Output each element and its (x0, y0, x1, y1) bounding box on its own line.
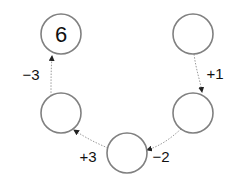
number-chain-diagram: 6 +1 −2 +3 −3 (0, 0, 244, 183)
node-middle-right (173, 93, 213, 133)
label-plus-one: +1 (206, 65, 223, 82)
arrow-bottom-to-middle-left (74, 130, 108, 148)
arrow-top-right-to-middle-right (194, 54, 202, 92)
node-bottom (107, 133, 147, 173)
diagram-canvas: 6 +1 −2 +3 −3 (0, 0, 244, 183)
label-minus-three: −3 (22, 66, 39, 83)
node-middle-left (41, 93, 81, 133)
node-value: 6 (55, 22, 67, 47)
label-minus-two: −2 (152, 148, 169, 165)
node-top-right (173, 14, 213, 54)
arrow-middle-left-to-top-left (51, 56, 52, 96)
node-top-left: 6 (41, 14, 81, 54)
label-plus-three: +3 (79, 148, 96, 165)
arrow-middle-right-to-bottom (147, 129, 181, 150)
